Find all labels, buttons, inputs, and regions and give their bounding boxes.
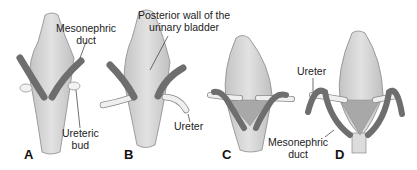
urethra-d — [352, 133, 366, 153]
panel-c-drawing — [210, 36, 292, 153]
label-a-ureteric-bud: Ureteric bud — [62, 127, 99, 151]
panel-d-drawing — [308, 31, 402, 153]
ureteric-bud-left — [20, 84, 32, 92]
label-b-ureter: Ureter — [174, 120, 203, 132]
label-text: bud — [62, 139, 99, 151]
label-text: Ureteric — [62, 127, 99, 139]
label-text: urinary bladder — [138, 21, 230, 33]
bladder-c — [225, 36, 272, 153]
label-text: Ureter — [174, 120, 203, 132]
panel-label-a: A — [24, 147, 33, 162]
label-b-posterior-wall: Posterior wall of the urinary bladder — [138, 9, 230, 33]
ureteric-bud-right — [68, 82, 80, 90]
label-d-mesonephric-duct: Mesonephric duct — [268, 136, 328, 160]
panel-label-d: D — [335, 147, 344, 162]
label-text: Mesonephric — [56, 22, 116, 34]
label-text: duct — [56, 34, 116, 46]
label-text: Posterior wall of the — [138, 9, 230, 21]
panel-label-b: B — [124, 147, 133, 162]
label-text: duct — [268, 148, 328, 160]
panel-label-c: C — [222, 147, 231, 162]
label-text: Ureter — [297, 65, 326, 77]
label-a-mesonephric-duct: Mesonephric duct — [56, 22, 116, 46]
label-text: Mesonephric — [268, 136, 328, 148]
label-d-ureter: Ureter — [297, 65, 326, 77]
